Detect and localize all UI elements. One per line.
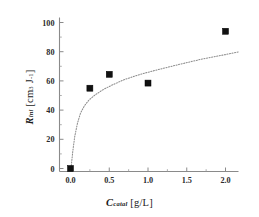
chart-figure: 0.00.51.01.52.0020406080100 Ccatal [g/L]… [0, 0, 259, 217]
data-point-marker [87, 85, 93, 91]
x-tick-label: 1.5 [182, 176, 192, 185]
tick-labels-group: 0.00.51.01.52.0020406080100 [42, 19, 230, 185]
y-tick-label: 20 [46, 135, 54, 144]
data-points-group [68, 28, 229, 171]
x-tick-label: 1.0 [143, 176, 153, 185]
fit-curve [71, 52, 239, 166]
fit-curve-group [71, 52, 239, 166]
y-axis-unit-close: ] [24, 69, 35, 73]
x-tick-label: 2.0 [220, 176, 230, 185]
data-point-marker [145, 80, 151, 86]
y-axis-unit-exponent-1: 3 [27, 86, 34, 90]
axes-group [60, 18, 239, 172]
tick-marks-group [60, 23, 226, 172]
data-point-marker [68, 166, 74, 172]
y-tick-label: 60 [46, 77, 54, 86]
data-point-marker [106, 71, 112, 77]
y-axis-symbol: R [24, 117, 35, 124]
data-point-marker [223, 28, 229, 34]
y-axis-unit-mid: J [24, 79, 35, 86]
x-tick-label: 0.5 [104, 176, 114, 185]
y-axis-unit-open: [cm [24, 90, 35, 107]
y-axis-subscript: ini [27, 109, 34, 117]
x-axis-label: Ccatal [g/L] [0, 192, 259, 210]
y-tick-label: 100 [42, 19, 54, 28]
y-tick-label: 40 [46, 106, 54, 115]
x-axis-unit: [g/L] [130, 197, 153, 208]
y-tick-label: 0 [50, 165, 54, 174]
y-tick-label: 80 [46, 48, 54, 57]
x-tick-label: 0.0 [65, 176, 75, 185]
y-axis-unit-exponent-2: -1 [27, 73, 34, 79]
x-axis-subscript: catal [113, 200, 127, 207]
y-axis-label: Rini [cm3 J-1] [19, 17, 37, 177]
scatter-plot-canvas: 0.00.51.01.52.0020406080100 [0, 0, 259, 217]
